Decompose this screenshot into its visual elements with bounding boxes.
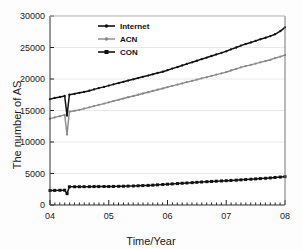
series-marker <box>205 180 208 183</box>
series-marker <box>225 179 228 182</box>
series-marker <box>161 183 164 186</box>
series-marker <box>225 50 227 52</box>
series-marker <box>103 86 105 88</box>
series-marker <box>210 55 212 57</box>
series-marker <box>122 97 124 99</box>
series-marker <box>259 38 261 40</box>
x-tick-label: 06 <box>162 211 172 221</box>
series-marker <box>269 176 272 179</box>
series-marker <box>152 73 154 75</box>
series-marker <box>53 189 56 192</box>
series-marker <box>200 77 202 79</box>
legend-label: CON <box>120 48 138 57</box>
series-marker <box>235 179 238 182</box>
series-marker <box>229 179 232 182</box>
series-marker <box>147 184 150 187</box>
series-marker <box>230 48 232 50</box>
series-marker <box>66 114 68 116</box>
series-marker <box>58 189 61 192</box>
series-marker <box>200 181 203 184</box>
series-marker <box>176 66 178 68</box>
series-marker <box>244 43 246 45</box>
legend-marker <box>105 37 109 41</box>
series-marker <box>186 81 188 83</box>
series-marker <box>59 96 61 98</box>
y-tick-label: 25000 <box>20 43 45 53</box>
legend-label: ACN <box>120 35 138 44</box>
series-marker <box>68 185 71 188</box>
series-marker <box>66 192 69 195</box>
series-marker <box>250 41 252 43</box>
series-marker <box>142 92 144 94</box>
series-marker <box>264 177 267 180</box>
series-marker <box>141 184 144 187</box>
x-tick-label: 08 <box>280 211 290 221</box>
series-marker <box>166 183 169 186</box>
series-marker <box>200 58 202 60</box>
series-marker <box>235 68 237 70</box>
series-marker <box>112 83 114 85</box>
series-marker <box>176 182 179 185</box>
series-marker <box>206 56 208 58</box>
series-marker <box>254 62 256 64</box>
series-marker <box>93 105 95 107</box>
series-marker <box>166 86 168 88</box>
series-marker <box>88 90 90 92</box>
series-marker <box>264 37 266 39</box>
series-marker <box>54 116 56 118</box>
series-marker <box>254 40 256 42</box>
series-marker <box>196 60 198 62</box>
series-marker <box>176 84 178 86</box>
series-marker <box>147 91 149 93</box>
series-marker <box>118 82 120 84</box>
series-marker <box>122 81 124 83</box>
series-marker <box>142 76 144 78</box>
series-marker <box>249 178 252 181</box>
x-tick-label: 04 <box>45 211 55 221</box>
series-marker <box>186 63 188 65</box>
series-marker <box>279 30 281 32</box>
series-marker <box>103 102 105 104</box>
series-marker <box>83 91 85 93</box>
x-axis-title: Time/Year <box>0 235 302 247</box>
series-marker <box>191 181 194 184</box>
series-marker <box>171 67 173 69</box>
series-marker <box>220 179 223 182</box>
series-marker <box>83 185 86 188</box>
series-marker <box>215 73 217 75</box>
series-marker <box>274 176 277 179</box>
series-marker <box>195 181 198 184</box>
series-marker <box>74 93 76 95</box>
series-marker <box>132 184 135 187</box>
series-marker <box>162 87 164 89</box>
series-marker <box>166 69 168 71</box>
series-marker <box>156 72 158 74</box>
series-marker <box>137 77 139 79</box>
series-marker <box>210 75 212 77</box>
series-marker <box>127 96 129 98</box>
series-marker <box>230 69 232 71</box>
x-tick-label: 07 <box>221 211 231 221</box>
legend-marker <box>105 50 109 54</box>
series-marker <box>74 110 76 112</box>
series-marker <box>127 185 130 188</box>
series-marker <box>73 185 76 188</box>
series-marker <box>68 94 70 96</box>
series-marker <box>68 111 70 113</box>
series-marker <box>191 61 193 63</box>
series-marker <box>132 95 134 97</box>
series-marker <box>215 180 218 183</box>
y-tick-label: 0 <box>40 200 45 210</box>
series-marker <box>191 80 193 82</box>
series-marker <box>239 178 242 181</box>
series-marker <box>215 53 217 55</box>
series-marker <box>250 64 252 66</box>
series-marker <box>181 182 184 185</box>
series-marker <box>264 60 266 62</box>
series-marker <box>108 84 110 86</box>
series-marker <box>63 189 66 192</box>
series-marker <box>112 185 115 188</box>
y-tick-label: 15000 <box>20 106 45 116</box>
line-chart-svg: 050001000015000200002500030000 040506070… <box>0 0 302 250</box>
series-marker <box>64 95 66 97</box>
